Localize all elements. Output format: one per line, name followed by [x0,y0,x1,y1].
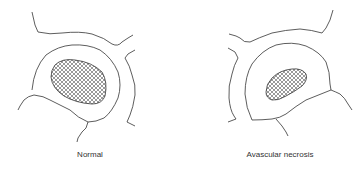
lower-left-branch [18,95,34,110]
lower-branch [276,119,288,136]
lower-branch [77,122,88,142]
lesion-normal [51,60,106,104]
outer-contour-left [228,48,238,122]
inner-ring-lower [252,90,331,120]
panel-avascular-necrosis [228,10,352,136]
outer-contour-top [32,12,133,45]
lesion-avn [266,69,307,100]
caption-normal: Normal [55,150,125,159]
panel-normal [18,12,135,142]
outer-contour-top [229,10,333,42]
outer-contour-right [125,50,135,126]
diagram-canvas [0,0,356,170]
caption-avascular-necrosis: Avascular necrosis [225,150,335,159]
